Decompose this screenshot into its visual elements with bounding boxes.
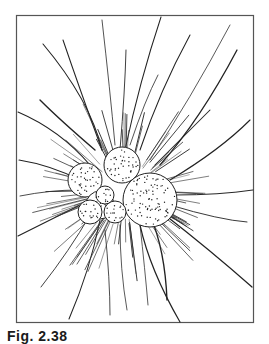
- cell-dot: [128, 210, 129, 211]
- cell-sphere: [78, 200, 102, 224]
- cell-dot: [144, 182, 145, 183]
- cell-dot: [153, 223, 154, 224]
- cell-dot: [89, 179, 90, 180]
- filament: [170, 120, 250, 180]
- cell-dot: [77, 190, 78, 191]
- cell-dot: [154, 184, 155, 185]
- cell-dot: [85, 186, 86, 187]
- cell-dot: [90, 186, 91, 187]
- cell-dot: [93, 171, 94, 172]
- cell-dot: [77, 176, 78, 177]
- cell-dot: [135, 209, 136, 210]
- cell-dot: [149, 205, 150, 206]
- cell-dot: [86, 191, 87, 192]
- cell-dot: [96, 216, 97, 217]
- cell-dot: [132, 164, 133, 165]
- cell-dot: [145, 190, 146, 191]
- cell-dot: [87, 171, 88, 172]
- cell-dot: [114, 175, 115, 176]
- cell-dot: [95, 181, 96, 182]
- cell-dot: [122, 178, 123, 179]
- cell-dot: [128, 165, 129, 166]
- filament: [18, 112, 90, 165]
- cell-dot: [89, 167, 90, 168]
- cell-dot: [159, 206, 160, 207]
- cell-dot: [97, 217, 98, 218]
- cell-dot: [115, 168, 116, 169]
- cell-dot: [135, 166, 136, 167]
- cell-dot: [164, 202, 165, 203]
- filament: [165, 215, 252, 287]
- filament: [156, 149, 190, 171]
- cell-dot: [166, 209, 167, 210]
- cell-dot: [107, 208, 108, 209]
- cell-dot: [152, 194, 153, 195]
- cell-dot: [123, 156, 124, 157]
- cell-dot: [122, 160, 123, 161]
- cell-dot: [140, 203, 141, 204]
- cell-dot: [114, 163, 115, 164]
- cell-dot: [85, 211, 86, 212]
- cell-dot: [118, 168, 119, 169]
- cell-dot: [120, 155, 121, 156]
- cell-dot: [157, 185, 158, 186]
- cell-dot: [113, 208, 114, 209]
- filament: [155, 110, 210, 165]
- cell-dot: [167, 212, 168, 213]
- filament: [150, 215, 167, 300]
- cell-dot: [85, 173, 86, 174]
- cell-dot: [164, 216, 165, 217]
- cell-dot: [143, 192, 144, 193]
- cell-dot: [115, 217, 116, 218]
- cell-dot: [106, 212, 107, 213]
- cell-dot: [121, 149, 122, 150]
- cell-sphere: [104, 201, 126, 223]
- filament: [120, 225, 127, 310]
- cell-dot: [115, 169, 116, 170]
- cell-dot: [122, 180, 123, 181]
- cell-dot: [146, 192, 147, 193]
- cell-dot: [157, 206, 158, 207]
- cell-dot: [116, 159, 117, 160]
- cell-dot: [145, 223, 146, 224]
- cell-dot: [132, 157, 133, 158]
- cell-dot: [155, 209, 156, 210]
- filament: [150, 115, 189, 162]
- cell-dot: [160, 185, 161, 186]
- cell-dot: [122, 209, 123, 210]
- cell-dot: [146, 191, 147, 192]
- cell-dot: [97, 213, 98, 214]
- cell-dot: [121, 217, 122, 218]
- cell-dot: [157, 203, 158, 204]
- cell-dot: [111, 174, 112, 175]
- cell-dot: [133, 200, 134, 201]
- cell-dot: [140, 191, 141, 192]
- cell-dot: [152, 191, 153, 192]
- cell-dot: [166, 211, 167, 212]
- cell-dot: [150, 217, 151, 218]
- cell-dot: [155, 179, 156, 180]
- cell-dot: [91, 166, 92, 167]
- cell-dot: [110, 212, 111, 213]
- cell-dot: [87, 180, 88, 181]
- cell-dot: [155, 208, 156, 209]
- cell-dot: [80, 185, 81, 186]
- cell-dot: [106, 189, 107, 190]
- cell-dot: [174, 196, 175, 197]
- filament: [125, 17, 161, 150]
- cell-dot: [86, 204, 87, 205]
- cell-dot: [105, 194, 106, 195]
- cell-dot: [80, 211, 81, 212]
- cell-dot: [155, 218, 156, 219]
- cell-dot: [84, 178, 85, 179]
- cell-dot: [147, 217, 148, 218]
- cell-dot: [137, 165, 138, 166]
- cell-dot: [133, 181, 134, 182]
- cell-dot: [115, 157, 116, 158]
- cell-dot: [85, 179, 86, 180]
- filament: [105, 230, 110, 315]
- cell-dot: [97, 183, 98, 184]
- cell-dot: [110, 169, 111, 170]
- cell-dot: [81, 167, 82, 168]
- cell-dot: [162, 179, 163, 180]
